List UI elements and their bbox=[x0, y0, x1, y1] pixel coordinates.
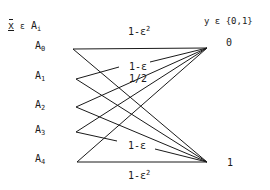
input-a0: A0 bbox=[35, 40, 45, 53]
input-a3: A3 bbox=[35, 124, 45, 137]
edge-a3-1-left bbox=[76, 132, 117, 141]
label-bottom: 1-ε2 bbox=[128, 170, 150, 183]
input-a1: A1 bbox=[35, 70, 45, 83]
label-a1-to-0: 1-ε bbox=[129, 61, 147, 72]
label-top: 1-ε2 bbox=[128, 26, 150, 39]
input-set-subscript: i bbox=[37, 25, 41, 33]
label-a2-to-0: 1/2 bbox=[129, 73, 147, 84]
edge-a0-0 bbox=[73, 48, 207, 49]
input-variable: x bbox=[8, 20, 14, 31]
output-1: 1 bbox=[227, 157, 233, 168]
element-of-symbol: ε bbox=[20, 22, 25, 31]
edge-a2-1 bbox=[76, 107, 207, 162]
edge-a1-0-left bbox=[76, 67, 119, 79]
output-header: y ε {0,1} bbox=[204, 16, 253, 27]
input-a4: A4 bbox=[35, 153, 45, 166]
label-a3-to-1: 1-ε bbox=[128, 140, 146, 151]
input-header: x ε Ai bbox=[8, 20, 41, 33]
input-a2: A2 bbox=[35, 99, 45, 112]
output-0: 0 bbox=[226, 37, 232, 48]
